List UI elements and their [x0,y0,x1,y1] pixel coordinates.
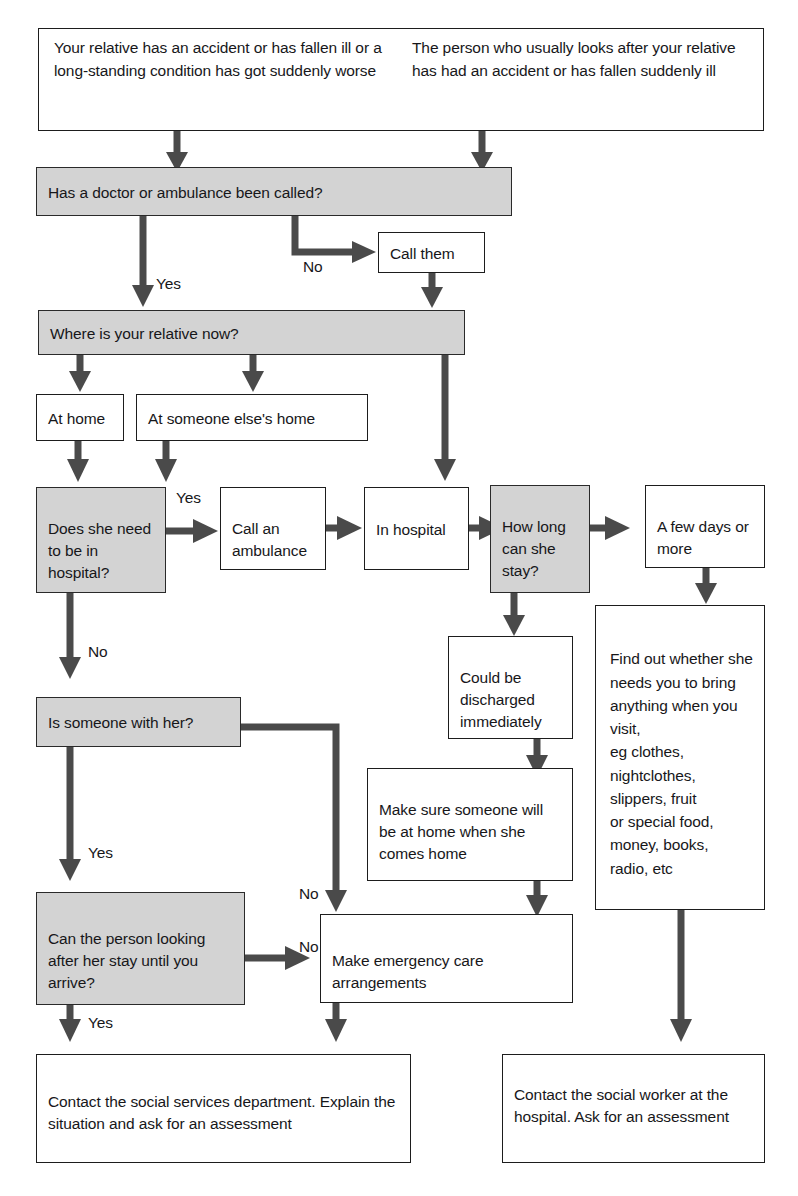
node-contact-social-worker-text: Contact the social worker at the hospita… [514,1084,754,1128]
connector-emergency-down [0,0,798,1196]
node-contact-social-worker: Contact the social worker at the hospita… [502,1054,765,1163]
node-contact-social-services: Contact the social services department. … [36,1054,411,1163]
flowchart-canvas: Your relative has an accident or has fal… [0,0,798,1196]
node-contact-social-services-text: Contact the social services department. … [48,1093,395,1132]
